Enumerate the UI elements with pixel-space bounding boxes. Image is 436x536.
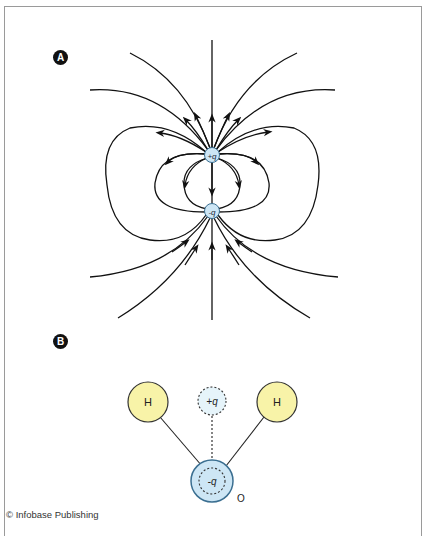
publisher-credit: © Infobase Publishing: [6, 509, 99, 520]
oxygen-label: O: [237, 493, 245, 504]
water-molecule: H H +q -q O: [128, 382, 297, 504]
svg-text:H: H: [273, 396, 281, 408]
svg-text:+q: +q: [206, 396, 218, 407]
svg-text:H: H: [144, 396, 152, 408]
positive-charge: +q: [205, 148, 220, 163]
svg-text:-q: -q: [208, 476, 217, 487]
field-lines: [90, 40, 338, 320]
negative-charge: -q: [205, 204, 220, 219]
panel-b-label: B: [53, 334, 68, 349]
svg-text:+q: +q: [207, 152, 217, 161]
svg-text:-q: -q: [208, 208, 216, 217]
panel-a-label: A: [53, 50, 68, 65]
